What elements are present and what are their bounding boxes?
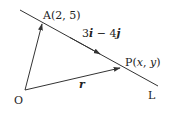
vector-oa xyxy=(25,24,42,90)
vector-r xyxy=(25,68,120,90)
point-a-label: A(2, 5) xyxy=(42,9,81,22)
vector-line-diagram: A(2, 5) 3i − 4j P(x, y) r L O xyxy=(0,0,174,114)
vector-r-label: r xyxy=(79,78,86,91)
direction-vector-label: 3i − 4j xyxy=(82,27,120,40)
origin-o-label: O xyxy=(14,94,23,107)
line-l-label: L xyxy=(148,89,156,102)
point-p-label: P(x, y) xyxy=(125,56,160,69)
